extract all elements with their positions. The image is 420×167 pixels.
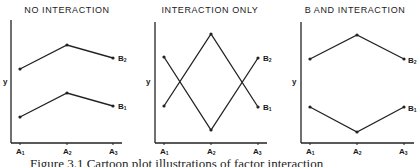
svg-text:A2: A2 bbox=[207, 147, 216, 156]
svg-text:A1: A1 bbox=[306, 147, 315, 156]
series-b2-line bbox=[164, 57, 258, 130]
series-b2-line bbox=[20, 45, 113, 69]
series-b1-line bbox=[20, 93, 113, 117]
series-label-b2: B2 bbox=[118, 54, 127, 63]
x-tick-labels: A1 A2 A3 bbox=[306, 143, 408, 156]
svg-text:A2: A2 bbox=[353, 147, 362, 156]
panel-no-interaction: NO INTERACTION y B2 B1 A1 A2 A3 bbox=[3, 5, 127, 156]
y-axis-label: y bbox=[292, 77, 297, 86]
data-points bbox=[162, 32, 259, 131]
interaction-figure: NO INTERACTION y B2 B1 A1 A2 A3 INTERACT… bbox=[0, 0, 420, 167]
svg-text:A3: A3 bbox=[253, 147, 262, 156]
svg-text:A3: A3 bbox=[109, 147, 118, 156]
y-axis-label: y bbox=[3, 77, 8, 86]
panel-b-and-interaction: B AND INTERACTION y B2 B1 A1 A2 A3 bbox=[292, 5, 417, 156]
svg-text:A3: A3 bbox=[399, 147, 408, 156]
series-b1-line bbox=[164, 34, 258, 107]
series-label-b1: B1 bbox=[408, 104, 417, 113]
figure-caption: Figure 3.1 Cartoon plot illustrations of… bbox=[30, 156, 323, 167]
series-label-b2: B2 bbox=[263, 54, 272, 63]
panel-title: NO INTERACTION bbox=[24, 5, 109, 15]
series-b1-line bbox=[310, 107, 404, 132]
data-points bbox=[308, 33, 405, 133]
panel-interaction-only: INTERACTION ONLY y B2 B1 A1 A2 A3 bbox=[146, 5, 272, 156]
svg-text:A1: A1 bbox=[160, 147, 169, 156]
svg-text:A2: A2 bbox=[63, 147, 72, 156]
panel-title: INTERACTION ONLY bbox=[162, 5, 259, 15]
svg-text:A1: A1 bbox=[16, 147, 25, 156]
x-tick-labels: A1 A2 A3 bbox=[16, 143, 118, 156]
y-axis-label: y bbox=[146, 77, 151, 86]
panel-title: B AND INTERACTION bbox=[305, 5, 406, 15]
series-label-b1: B1 bbox=[263, 103, 272, 112]
series-label-b1: B1 bbox=[118, 102, 127, 111]
series-b2-line bbox=[310, 35, 404, 59]
series-label-b2: B2 bbox=[408, 56, 417, 65]
x-tick-labels: A1 A2 A3 bbox=[160, 143, 262, 156]
